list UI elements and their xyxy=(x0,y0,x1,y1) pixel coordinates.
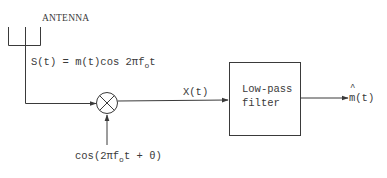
received-signal-lhs: S(t) xyxy=(31,56,56,68)
received-signal-rhs: m(t)cos 2πf xyxy=(75,56,144,68)
output-label-rest: (t) xyxy=(355,92,374,104)
lo-label-pre: cos(2πf xyxy=(75,150,119,162)
lo-label-post: t + θ) xyxy=(124,150,162,162)
filter-label-line1: Low-pass xyxy=(242,84,292,95)
local-oscillator-label: cos(2πfot + θ) xyxy=(75,151,162,162)
antenna-label: ANTENNA xyxy=(42,14,89,24)
received-signal-equation: S(t) = m(t)cos 2πfot xyxy=(31,57,156,68)
output-hat-m: m xyxy=(349,93,355,104)
mixer-output-label: X(t) xyxy=(183,87,208,98)
mixer-icon xyxy=(97,93,118,114)
filter-label-line2: filter xyxy=(242,98,280,109)
signal-path-received xyxy=(26,46,97,104)
equals-sign: = xyxy=(56,56,75,68)
received-signal-rhs-tail: t xyxy=(149,56,155,68)
signal-path-mixer-output xyxy=(118,100,229,101)
antenna-icon xyxy=(9,27,41,46)
output-label: m(t) xyxy=(349,93,374,104)
